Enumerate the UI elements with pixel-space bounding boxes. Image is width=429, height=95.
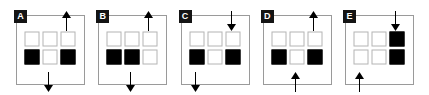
grid-cell-empty-r2c2	[207, 50, 222, 65]
answer-options-figure: ABCDE	[0, 0, 429, 95]
square-grid	[107, 32, 158, 65]
grid-cell-empty-r1c2	[289, 32, 304, 47]
grid-cell-filled-r2c1	[25, 50, 40, 65]
grid-cell-empty-r2c1	[354, 50, 369, 65]
grid-cell-empty-r1c3	[307, 32, 322, 47]
grid-cell-filled-r2c3	[225, 50, 240, 65]
grid-cell-empty-r1c2	[125, 32, 140, 47]
grid-cell-empty-r1c2	[43, 32, 58, 47]
arrow-down-bottom-mid-icon	[125, 72, 136, 92]
square-grid	[354, 32, 405, 65]
grid-cell-empty-r1c1	[354, 32, 369, 47]
grid-cell-empty-r1c3	[225, 32, 240, 47]
option-label-badge: C	[179, 10, 192, 23]
option-panel-e[interactable]: E	[343, 10, 415, 86]
arrow-down-bottom-mid-icon	[43, 72, 54, 92]
square-grid	[25, 32, 76, 65]
arrow-down-top-right-icon	[226, 11, 237, 31]
grid-cell-filled-r2c1	[189, 50, 204, 65]
grid-cell-filled-r2c1	[271, 50, 286, 65]
option-panel-d[interactable]: D	[261, 10, 333, 86]
grid-cell-filled-r2c3	[390, 50, 405, 65]
grid-cell-empty-r1c3	[143, 32, 158, 47]
arrow-up-top-right-icon	[308, 11, 319, 31]
arrow-up-bottom-left-icon	[354, 72, 365, 92]
grid-cell-empty-r1c3	[61, 32, 76, 47]
grid-cell-empty-r2c2	[289, 50, 304, 65]
grid-cell-empty-r1c1	[189, 32, 204, 47]
square-grid	[189, 32, 240, 65]
option-panel-a[interactable]: A	[14, 10, 86, 86]
grid-cell-filled-r2c1	[107, 50, 122, 65]
grid-cell-empty-r1c1	[271, 32, 286, 47]
arrow-up-top-right-icon	[143, 11, 154, 31]
grid-cell-empty-r1c2	[372, 32, 387, 47]
arrow-down-bottom-left-icon	[190, 72, 201, 92]
arrow-up-top-right-icon	[61, 11, 72, 31]
grid-cell-filled-r2c3	[307, 50, 322, 65]
grid-cell-empty-r2c3	[143, 50, 158, 65]
grid-cell-filled-r2c3	[61, 50, 76, 65]
option-label-badge: D	[261, 10, 274, 23]
square-grid	[271, 32, 322, 65]
option-label-badge: B	[96, 10, 109, 23]
grid-cell-empty-r2c2	[372, 50, 387, 65]
arrow-up-bottom-mid-icon	[290, 72, 301, 92]
grid-cell-filled-r1c3	[390, 32, 405, 47]
grid-cell-empty-r1c1	[107, 32, 122, 47]
option-panel-b[interactable]: B	[96, 10, 168, 86]
grid-cell-empty-r1c1	[25, 32, 40, 47]
arrow-down-top-right-icon	[390, 11, 401, 31]
grid-cell-filled-r2c2	[125, 50, 140, 65]
grid-cell-empty-r1c2	[207, 32, 222, 47]
option-label-badge: A	[14, 10, 27, 23]
grid-cell-empty-r2c2	[43, 50, 58, 65]
option-panel-c[interactable]: C	[179, 10, 251, 86]
option-label-badge: E	[343, 10, 356, 23]
